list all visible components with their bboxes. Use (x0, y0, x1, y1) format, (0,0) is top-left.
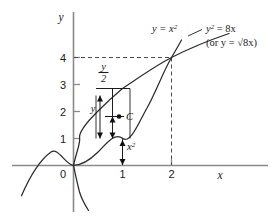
y-tick-label-1: 1 (60, 133, 66, 145)
curve-label-parabola-up-sup: 2 (174, 23, 178, 31)
x-axis-ticks (123, 160, 172, 166)
curve-label-sideways: y2 = 8x (205, 23, 237, 35)
x-tick-label-2: 2 (168, 168, 174, 180)
y-tick-label-3: 3 (60, 79, 66, 91)
measure-x-squared-arrowhead-up (120, 140, 126, 146)
curve-label-parabola-up: y = x2 (151, 23, 178, 35)
measure-y-arrowhead-up (97, 96, 103, 102)
curve-y-squared-equals-8x-lower (74, 165, 89, 210)
measure-y-over-2-numerator: y (100, 61, 106, 72)
measure-y-over-2-denominator: 2 (101, 73, 107, 84)
centroid-point-label: C (126, 111, 134, 122)
measure-x-squared-label: x2 (126, 141, 136, 153)
y-tick-label-4: 4 (60, 52, 66, 64)
measure-x-squared-group: x2 (120, 140, 136, 165)
curve-label-sideways-group: y2 = 8x (or y = √8x) (205, 23, 258, 50)
measure-x-squared-arrowhead-down (120, 159, 126, 165)
measure-y-over-2-arrowhead-up (110, 117, 116, 123)
measure-y-label: y (90, 103, 96, 114)
centroid-point-group: C (117, 111, 134, 122)
curve-label-sideways-alt: (or y = √8x) (206, 37, 258, 49)
math-figure-svg: 4 3 2 1 0 1 2 y x y = x2 y2 = 8x (or y =… (0, 0, 275, 220)
y-axis-label: y (57, 11, 64, 24)
curve-label-parabola-up-group: y = x2 (151, 23, 178, 35)
y-tick-label-0: 0 (60, 168, 66, 180)
y-tick-label-2: 2 (60, 106, 66, 118)
figure-container: 4 3 2 1 0 1 2 y x y = x2 y2 = 8x (or y =… (0, 0, 275, 220)
x-tick-label-1: 1 (119, 168, 125, 180)
leader-line-sideways-label (188, 30, 202, 37)
centroid-point-marker (117, 114, 122, 119)
measure-x-squared-sup: 2 (132, 141, 136, 149)
curve-label-parabola-up-text: y = x (151, 23, 174, 34)
measure-y-arrowhead-down (97, 133, 103, 139)
y-axis-ticks (74, 58, 81, 139)
curve-label-sideways-text2: = 8x (214, 23, 236, 34)
x-axis-label: x (216, 169, 223, 181)
